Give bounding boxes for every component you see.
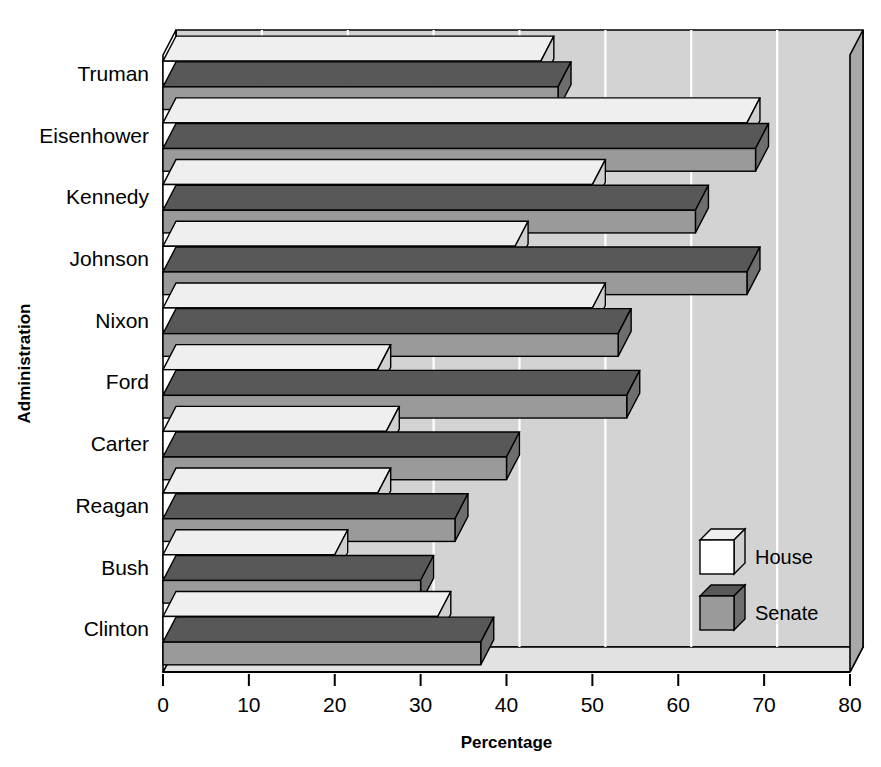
bar-bush-senate-top: [163, 555, 434, 580]
category-label-reagan: Reagan: [75, 494, 149, 517]
x-tick-label-10: 10: [237, 693, 260, 716]
bar-reagan-senate-top: [163, 494, 468, 519]
legend-swatch-house: [700, 529, 745, 574]
bar-clinton-senate-front: [163, 642, 481, 665]
bar-eisenhower-house-top: [163, 98, 760, 123]
legend-label-senate: Senate: [755, 602, 818, 624]
bar-clinton-house-top: [163, 591, 451, 616]
x-tick-label-80: 80: [838, 693, 861, 716]
bar-kennedy-senate-top: [163, 185, 708, 210]
x-tick-label-40: 40: [495, 693, 518, 716]
bar-reagan-house-top: [163, 468, 391, 493]
bar-chart: 01020304050607080PercentageTrumanEisenho…: [0, 0, 881, 767]
legend-swatch-senate: [700, 585, 745, 630]
x-tick-label-70: 70: [752, 693, 775, 716]
bar-ford-senate-top: [163, 370, 640, 395]
bar-johnson-house-top: [163, 221, 528, 246]
x-tick-label-0: 0: [157, 693, 169, 716]
bar-bush-house-top: [163, 530, 348, 555]
bar-carter-senate-top: [163, 432, 520, 457]
x-axis-title: Percentage: [461, 733, 553, 752]
plot-right-wall: [850, 30, 863, 672]
bar-nixon-house-top: [163, 283, 605, 308]
category-label-nixon: Nixon: [95, 309, 149, 332]
bar-kennedy-house-top: [163, 160, 605, 185]
bar-truman-senate-top: [163, 62, 571, 87]
legend-label-house: House: [755, 546, 813, 568]
x-tick-label-60: 60: [667, 693, 690, 716]
chart-canvas: 01020304050607080PercentageTrumanEisenho…: [0, 0, 881, 767]
bar-truman-house-top: [163, 36, 554, 61]
legend-swatch-senate-front: [700, 596, 734, 630]
x-tick-label-50: 50: [581, 693, 604, 716]
category-label-clinton: Clinton: [84, 617, 149, 640]
legend-swatch-house-front: [700, 540, 734, 574]
bar-clinton-senate: [163, 617, 494, 665]
category-label-ford: Ford: [106, 370, 149, 393]
bar-clinton-senate-top: [163, 617, 494, 642]
y-axis-title: Administration: [15, 304, 34, 424]
category-label-kennedy: Kennedy: [66, 185, 149, 208]
x-tick-label-30: 30: [409, 693, 432, 716]
category-label-truman: Truman: [77, 62, 149, 85]
bar-ford-house-top: [163, 345, 391, 370]
category-label-eisenhower: Eisenhower: [39, 124, 149, 147]
category-label-bush: Bush: [101, 556, 149, 579]
x-tick-label-20: 20: [323, 693, 346, 716]
bar-johnson-senate-top: [163, 247, 760, 272]
category-label-johnson: Johnson: [70, 247, 149, 270]
bar-carter-house-top: [163, 406, 399, 431]
category-label-carter: Carter: [91, 432, 149, 455]
bar-eisenhower-senate-top: [163, 124, 769, 149]
bar-nixon-senate-top: [163, 309, 631, 334]
